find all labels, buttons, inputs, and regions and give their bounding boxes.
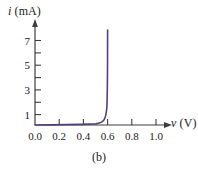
x-axis-symbol: v — [171, 116, 176, 130]
diode-iv-characteristic-figure: i (mA) v (V) 1 3 5 7 0.0 0.2 0.4 0.6 0.8… — [0, 0, 198, 170]
figure-caption: (b) — [0, 150, 198, 165]
y-axis-unit: (mA) — [15, 4, 41, 18]
y-tick-label: 5 — [16, 59, 30, 71]
iv-curve — [35, 30, 108, 125]
x-axis-unit: (V) — [180, 116, 197, 130]
x-tick-label: 0.6 — [96, 130, 120, 142]
y-axis-title: i (mA) — [8, 4, 41, 19]
x-tick-label: 1.0 — [144, 130, 168, 142]
y-axis-arrowhead — [32, 19, 38, 27]
x-axis-title: v (V) — [171, 116, 197, 131]
x-tick-label: 0.4 — [71, 130, 95, 142]
x-tick-label: 0.2 — [47, 130, 71, 142]
y-tick-label: 7 — [16, 35, 30, 47]
y-tick-label: 3 — [16, 84, 30, 96]
y-axis-symbol: i — [8, 4, 11, 18]
x-tick-label: 0.0 — [23, 130, 47, 142]
y-tick-label: 1 — [16, 109, 30, 121]
x-tick-label: 0.8 — [120, 130, 144, 142]
y-minor-ticks — [35, 53, 41, 102]
